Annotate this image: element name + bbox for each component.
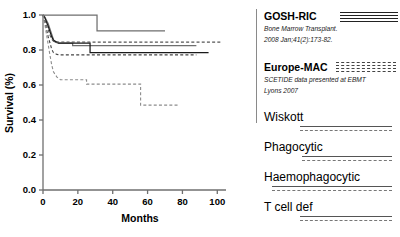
legend-row-haemophagocytic: Haemophagocytic (264, 171, 396, 184)
legend-rule-solid-haemophagocytic (272, 186, 392, 187)
x-axis-ticks: 020406080100 (40, 190, 225, 207)
chart-axes (43, 15, 226, 190)
legend-citation-gosh-ric-line1: Bone Marrow Transplant. (264, 24, 338, 33)
legend-citation-gosh-ric-line2: 2008 Jan;41(2):173-82. (264, 35, 338, 44)
legend-label-haemophagocytic: Haemophagocytic (264, 171, 396, 184)
legend-label-phagocytic: Phagocytic (264, 141, 396, 154)
y-tick-label: 0.2 (23, 149, 36, 160)
legend-block-gosh-ric: GOSH-RIC Bone Marrow Transplant. 2008 Ja… (264, 11, 338, 44)
legend-citation-europe-mac-line2: Lyons 2007 (264, 86, 366, 95)
legend-rule-dashed-phagocytic (302, 160, 392, 161)
survival-chart-panel: 0.00.20.40.60.81.0 020406080100 Survival… (0, 0, 236, 237)
legend-row-phagocytic: Phagocytic (264, 141, 396, 154)
legend-rule-dashed-haemophagocytic (272, 190, 392, 191)
x-tick-label: 100 (209, 196, 225, 207)
figure-root: 0.00.20.40.60.81.0 020406080100 Survival… (0, 0, 400, 237)
y-tick-label: 1.0 (23, 9, 36, 20)
survival-chart: 0.00.20.40.60.81.0 020406080100 Survival… (0, 0, 236, 237)
legend-row-t-cell-def: T cell def (264, 201, 396, 214)
x-axis-title: Months (121, 212, 158, 224)
x-tick-label: 0 (40, 196, 45, 207)
x-tick-label: 40 (107, 196, 118, 207)
legend-swatch-europe-mac (336, 62, 396, 74)
legend-label-t-cell-def: T cell def (264, 201, 396, 214)
legend-rule-dashed-t-cell-def (300, 220, 392, 221)
x-tick-label: 20 (73, 196, 84, 207)
y-tick-label: 0.6 (23, 79, 36, 90)
y-tick-label: 0.4 (23, 114, 37, 125)
legend-row-wiskott: Wiskott (264, 111, 396, 124)
legend-swatch-gosh-ric (340, 12, 398, 24)
y-axis-title: Survival (%) (3, 73, 15, 133)
legend-rule-solid-wiskott (300, 126, 392, 127)
legend-title-gosh-ric: GOSH-RIC (264, 11, 338, 22)
legend-label-wiskott: Wiskott (264, 111, 396, 124)
legend-rule-dashed-wiskott (300, 130, 392, 131)
y-tick-label: 0.0 (23, 184, 36, 195)
x-tick-label: 80 (177, 196, 188, 207)
legend-citation-europe-mac-line1: SCETIDE data presented at EBMT (264, 75, 366, 84)
curve-haemophagocytic (43, 15, 196, 55)
x-tick-label: 60 (142, 196, 153, 207)
curve-phagocytic (43, 15, 221, 42)
survival-curves (43, 15, 221, 105)
legend-panel: GOSH-RIC Bone Marrow Transplant. 2008 Ja… (236, 0, 400, 237)
y-tick-label: 0.8 (23, 44, 36, 55)
curve-gosh-ric-upper (43, 15, 165, 31)
curve-wiskott (43, 15, 209, 53)
y-axis-ticks: 0.00.20.40.60.81.0 (23, 9, 43, 195)
legend-divider (256, 9, 257, 123)
legend-rule-solid-phagocytic (302, 156, 392, 157)
legend-rule-solid-t-cell-def (300, 216, 392, 217)
curve-t-cell-def (43, 15, 179, 105)
